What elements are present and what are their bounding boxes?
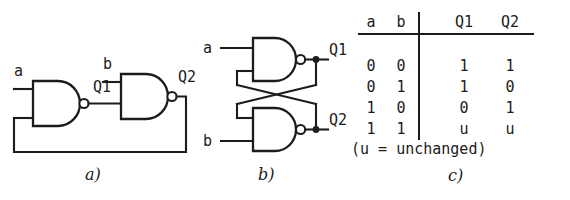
caption-panel-b: b) [258, 167, 274, 183]
rule-seg-b [384, 34, 419, 56]
header-a: a [358, 12, 384, 34]
nand-gate-1-bubble [79, 99, 88, 108]
label-input-a-panel-b: a [203, 41, 212, 56]
cell-b: 1 [384, 119, 419, 140]
cell-a: 1 [358, 98, 384, 119]
label-input-b: b [103, 57, 112, 72]
cell-q1: 1 [442, 77, 486, 98]
panel-c-truth-table: a b Q1 Q2 0 0 1 1 [345, 0, 570, 200]
cell-q2: 1 [486, 56, 534, 77]
header-q1: Q1 [442, 12, 486, 34]
nand-gate-bottom-bubble [296, 125, 305, 134]
truth-table: a b Q1 Q2 0 0 1 1 [358, 12, 534, 140]
table-row: 0 0 1 1 [358, 56, 534, 77]
cell-q2: 1 [486, 98, 534, 119]
caption-panel-a: a) [85, 167, 101, 183]
rule-seg-sp [420, 34, 442, 56]
rule-seg-a [358, 34, 384, 56]
cell-a: 1 [358, 119, 384, 140]
nand-gate-top-body [253, 38, 296, 81]
junction-q2 [313, 126, 320, 133]
panel-a-cascaded-nand: a Q1 b Q2 a) [0, 0, 195, 200]
header-q2: Q2 [486, 12, 534, 34]
cell-b: 0 [384, 98, 419, 119]
cell-a: 0 [358, 77, 384, 98]
nand-gate-1-body [33, 81, 80, 126]
figure-nand-latch: a Q1 b Q2 a) [0, 0, 570, 200]
label-input-a: a [14, 64, 23, 79]
cell-q2: 0 [486, 77, 534, 98]
wire-q2-feedback-loop [14, 97, 186, 153]
cell-q1: u [442, 119, 486, 140]
table-header-row: a b Q1 Q2 [358, 12, 534, 34]
table-row: 1 1 u u [358, 119, 534, 140]
nand-gate-bottom-body [253, 108, 296, 151]
cell-q2: u [486, 119, 534, 140]
cell-spacer [420, 77, 442, 98]
label-output-q2: Q2 [178, 70, 196, 85]
header-spacer [420, 12, 442, 34]
table-row: 1 0 0 1 [358, 98, 534, 119]
rule-seg-q1 [442, 34, 486, 56]
table-header-rule [358, 34, 534, 56]
label-node-q1: Q1 [93, 80, 111, 95]
cell-spacer [420, 98, 442, 119]
nand-gate-2-body [121, 74, 168, 119]
rule-seg-q2 [486, 34, 534, 56]
label-input-b-panel-b: b [203, 134, 212, 149]
header-b: b [384, 12, 419, 34]
cell-q1: 0 [442, 98, 486, 119]
table-note-unchanged: (u = unchanged) [351, 140, 486, 158]
cell-q1: 1 [442, 56, 486, 77]
cell-b: 0 [384, 56, 419, 77]
table-row: 0 1 1 0 [358, 77, 534, 98]
cell-b: 1 [384, 77, 419, 98]
cell-a: 0 [358, 56, 384, 77]
cell-spacer [420, 56, 442, 77]
nand-gate-2-bubble [167, 92, 176, 101]
cell-spacer [420, 119, 442, 140]
nand-gate-top-bubble [296, 55, 305, 64]
junction-q1 [313, 56, 320, 63]
panel-b-cross-coupled-nand: a b Q1 Q2 b) [195, 0, 345, 200]
caption-panel-c: c) [448, 168, 463, 184]
